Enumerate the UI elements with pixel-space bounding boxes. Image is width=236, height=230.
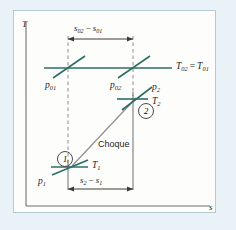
isotherm-t2-sub: 2: [157, 100, 160, 107]
shock-process-line: [72, 98, 136, 166]
isobar-p2-label: p2: [152, 83, 160, 93]
isotherm-t2-label: T2: [152, 97, 161, 107]
isobar-p02-sub: 02: [115, 84, 121, 91]
state-point-2-number: 2: [144, 106, 148, 116]
stagnation-equals: =: [190, 61, 195, 71]
process-label: Choque: [98, 140, 130, 149]
isobar-p01-line: [53, 56, 85, 78]
bottom-dim-operator: −: [89, 175, 94, 185]
isobar-p1-sub: 1: [43, 180, 46, 187]
y-axis-label: T: [22, 20, 27, 29]
isobar-p02-label: p02: [110, 81, 121, 91]
bottom-dimension-arrow-left: [68, 187, 74, 192]
bottom-dim-subtrahend-sub: 1: [99, 180, 102, 186]
top-dimension-arrow-right: [127, 37, 133, 42]
state-point-1-marker: 1: [57, 151, 73, 167]
figure-root: T s s02−s01 s2−s1 T02=T01 p01 p02 p1 p2 …: [0, 0, 236, 230]
isobar-p2-sub: 2: [157, 86, 160, 93]
isobar-p02-line: [118, 56, 150, 78]
isobar-p01-sub: 01: [50, 84, 56, 91]
top-dimension-arrow-left: [68, 37, 74, 42]
stagnation-rhs-sub: 01: [202, 65, 208, 72]
state-point-1-number: 1: [63, 154, 67, 164]
x-axis-label: s: [209, 203, 213, 212]
stagnation-lhs-sub: 02: [181, 65, 187, 72]
top-dim-operator: −: [86, 23, 91, 33]
bottom-dimension-arrow-right: [127, 187, 133, 192]
isotherm-t1-label: T1: [92, 161, 101, 171]
bottom-dim-minuend-sub: 2: [84, 180, 87, 186]
diagram-canvas: [0, 0, 236, 230]
isobar-p01-label: p01: [45, 81, 56, 91]
top-dimension-label: s02−s01: [74, 24, 102, 34]
state-point-2-marker: 2: [138, 103, 154, 119]
stagnation-temperature-label: T02=T01: [176, 62, 209, 72]
isobar-p1-label: p1: [38, 177, 46, 187]
top-dim-subtrahend-sub: 01: [96, 28, 102, 34]
isotherm-t1-sub: 1: [97, 164, 100, 171]
top-dim-minuend-sub: 02: [78, 28, 84, 34]
bottom-dimension-label: s2−s1: [80, 176, 102, 186]
